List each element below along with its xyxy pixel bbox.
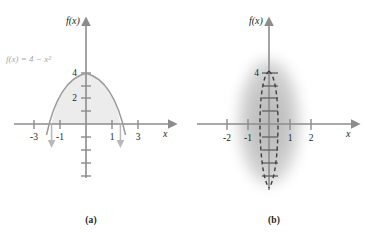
x-tick-label-neg1: -1 [56,132,64,142]
y-tick-label-4: 4 [72,68,77,78]
figure-container: f(x) x -3 -1 1 3 2 4 f(x) = 4 − x² (a) [0,0,365,233]
x-tick-label-pos1: 1 [110,132,115,142]
x-axis-label: x [345,128,351,139]
y-tick-label-4: 4 [254,68,259,78]
panel-a-caption: (a) [0,215,182,225]
x-tick-label-pos2: 2 [309,133,314,143]
x-axis-label: x [162,128,168,139]
panel-b-plot: f(x) x -2 -1 1 2 4 [183,0,365,200]
x-tick-label-neg1: -1 [244,133,252,143]
y-tick-label-2: 2 [72,93,77,103]
panel-a-plot: f(x) x -3 -1 1 3 2 4 f(x) = 4 − x² [0,0,182,200]
x-tick-label-pos3: 3 [136,132,141,142]
y-axis-label: f(x) [66,15,81,27]
x-tick-label-neg2: -2 [223,133,231,143]
x-tick-label-neg3: -3 [30,132,38,142]
y-axis-label: f(x) [249,15,264,27]
x-tick-label-pos1: 1 [288,133,293,143]
panel-b: f(x) x -2 -1 1 2 4 (b) [183,0,365,233]
function-equation-label: f(x) = 4 − x² [6,54,51,64]
panel-b-caption: (b) [183,215,365,225]
panel-a: f(x) x -3 -1 1 3 2 4 f(x) = 4 − x² (a) [0,0,182,233]
